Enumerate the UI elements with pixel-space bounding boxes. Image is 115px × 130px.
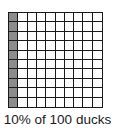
grid-cell (93, 60, 102, 69)
grid-cell (74, 98, 83, 107)
grid-cell (65, 69, 74, 78)
grid-cell (83, 60, 92, 69)
grid-cell (65, 98, 74, 107)
grid-cell (37, 32, 46, 41)
grid-cell (65, 79, 74, 88)
grid-cell (18, 60, 27, 69)
grid-cell (93, 98, 102, 107)
grid-cell (18, 69, 27, 78)
grid-cell (93, 41, 102, 50)
grid-cell (28, 88, 37, 97)
grid-cell (46, 69, 55, 78)
grid-cell (74, 22, 83, 31)
grid-cell-shaded (9, 88, 18, 97)
grid-cell (37, 51, 46, 60)
grid-cell (93, 88, 102, 97)
grid-cell-shaded (9, 32, 18, 41)
grid-cell (56, 32, 65, 41)
grid-cell (46, 32, 55, 41)
grid-cell (46, 88, 55, 97)
grid-cell (56, 41, 65, 50)
grid-cell (74, 41, 83, 50)
grid-cell (65, 32, 74, 41)
grid-cell (18, 79, 27, 88)
grid-cell (83, 98, 92, 107)
grid-cell (56, 88, 65, 97)
grid-cell (46, 51, 55, 60)
grid-cell (65, 88, 74, 97)
grid-cell-shaded (9, 51, 18, 60)
grid-cell (93, 22, 102, 31)
grid-cell (18, 32, 27, 41)
grid-cell (83, 32, 92, 41)
grid-cell (37, 13, 46, 22)
grid-cell (65, 13, 74, 22)
grid-cell (46, 41, 55, 50)
grid-cell-shaded (9, 22, 18, 31)
grid-cell (74, 79, 83, 88)
grid-cell (37, 60, 46, 69)
grid-cell (93, 32, 102, 41)
grid-caption: 10% of 100 ducks (0, 112, 115, 127)
grid-cell (83, 13, 92, 22)
grid-cell (56, 51, 65, 60)
grid-cell (18, 98, 27, 107)
grid-cell (28, 32, 37, 41)
hundred-grid (8, 12, 103, 108)
grid-cell-shaded (9, 98, 18, 107)
grid-cell (18, 51, 27, 60)
grid-cell (28, 98, 37, 107)
grid-cell (46, 98, 55, 107)
grid-cell (37, 88, 46, 97)
grid-cell-shaded (9, 13, 18, 22)
grid-cell (74, 60, 83, 69)
grid-cell (46, 13, 55, 22)
grid-cell (93, 51, 102, 60)
grid-cell (37, 41, 46, 50)
grid-cell (74, 51, 83, 60)
grid-cell (28, 79, 37, 88)
grid-cell (18, 88, 27, 97)
grid-cell (93, 13, 102, 22)
grid-cell (46, 22, 55, 31)
grid-cell (18, 13, 27, 22)
grid-cell (46, 60, 55, 69)
grid-cell-shaded (9, 79, 18, 88)
grid-cell-shaded (9, 41, 18, 50)
grid-cell (56, 69, 65, 78)
grid-cell (74, 13, 83, 22)
grid-cell (65, 22, 74, 31)
grid-cell (56, 13, 65, 22)
grid-cell (28, 51, 37, 60)
grid-cell (28, 13, 37, 22)
grid-cell (74, 88, 83, 97)
grid-cell (56, 79, 65, 88)
grid-cell (83, 51, 92, 60)
grid-cell (18, 41, 27, 50)
grid-cell (83, 41, 92, 50)
grid-cell (56, 60, 65, 69)
grid-cell (28, 69, 37, 78)
grid-cell (37, 69, 46, 78)
grid-cell (28, 60, 37, 69)
grid-cell (93, 69, 102, 78)
grid-cell (65, 60, 74, 69)
grid-cell (56, 98, 65, 107)
grid-cell (74, 32, 83, 41)
grid-cell (28, 41, 37, 50)
grid-cell (37, 98, 46, 107)
grid-cell (46, 79, 55, 88)
grid-cell (83, 79, 92, 88)
grid-cell (56, 22, 65, 31)
grid-cell (83, 69, 92, 78)
grid-cell (65, 51, 74, 60)
grid-cell (65, 41, 74, 50)
grid-cell (74, 69, 83, 78)
grid-cell (28, 22, 37, 31)
grid-cell-shaded (9, 60, 18, 69)
grid-cell (37, 79, 46, 88)
grid-cell (83, 22, 92, 31)
grid-cell (93, 79, 102, 88)
grid-cell (37, 22, 46, 31)
grid-cell (83, 88, 92, 97)
